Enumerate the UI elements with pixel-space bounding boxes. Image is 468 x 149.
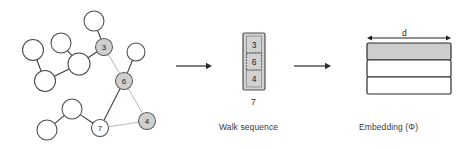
embedding-row[interactable]	[367, 43, 451, 60]
figure-canvas: 3647 364 7 Walk sequence d Embedding (Φ)	[0, 0, 468, 149]
embedding-row[interactable]	[367, 60, 451, 77]
embedding-dimension-arrowhead	[446, 35, 451, 40]
embedding-dimension-arrowhead	[367, 35, 372, 40]
embedding-caption: Embedding (Φ)	[359, 122, 418, 132]
embedding-row[interactable]	[367, 77, 451, 94]
embedding-dimension-label: d	[402, 28, 407, 38]
